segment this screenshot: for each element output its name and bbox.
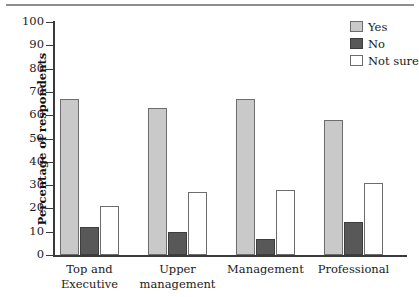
y-axis-title: Percentage of respondents xyxy=(35,52,49,225)
legend-swatch-not-sure xyxy=(350,55,363,66)
y-axis-tick-label: 0 xyxy=(18,249,44,261)
legend-item-no: No xyxy=(350,36,416,51)
header-divider xyxy=(6,4,414,6)
bar xyxy=(256,239,275,255)
bar xyxy=(188,192,207,255)
bar-chart: 1009080706050403020100 Percentage of res… xyxy=(0,0,419,297)
x-axis-category-label: Professional xyxy=(294,262,414,277)
y-axis-tick-label: 10 xyxy=(18,226,44,238)
bar xyxy=(344,222,363,255)
bar xyxy=(80,227,99,255)
legend-label-not-sure: Not sure xyxy=(368,54,419,68)
x-axis-category-label-line: management xyxy=(118,277,238,292)
x-axis-line xyxy=(53,255,407,257)
y-axis-tick-label: 90 xyxy=(18,39,44,51)
bar xyxy=(168,232,187,255)
y-axis-tick xyxy=(46,255,54,256)
bar xyxy=(276,190,295,255)
legend-swatch-no xyxy=(350,38,363,49)
y-axis-tick xyxy=(46,22,54,23)
bar xyxy=(324,120,343,255)
bar xyxy=(236,99,255,255)
bar xyxy=(364,183,383,255)
chart-legend: Yes No Not sure xyxy=(350,19,416,70)
legend-swatch-yes xyxy=(350,21,363,32)
y-axis-tick xyxy=(46,232,54,233)
legend-label-yes: Yes xyxy=(368,20,387,34)
bar xyxy=(100,206,119,255)
legend-label-no: No xyxy=(368,37,385,51)
legend-item-yes: Yes xyxy=(350,19,416,34)
x-axis-category-label-line: Professional xyxy=(294,262,414,277)
legend-item-not-sure: Not sure xyxy=(350,53,416,68)
y-axis-tick-label: 100 xyxy=(18,16,44,28)
bar xyxy=(148,108,167,255)
bar xyxy=(60,99,79,255)
y-axis-tick xyxy=(46,45,54,46)
